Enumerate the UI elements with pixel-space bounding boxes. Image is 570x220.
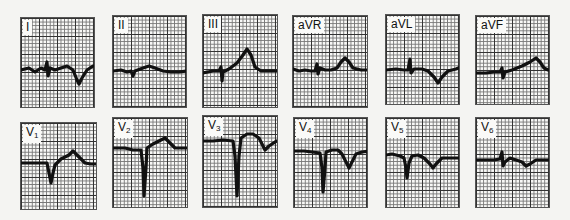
lead-panel-iii: III xyxy=(202,14,278,108)
lead-label: V6 xyxy=(478,120,496,138)
lead-label: III xyxy=(205,17,221,32)
lead-panel-avr: aVR xyxy=(292,15,368,108)
lead-panel-avl: aVL xyxy=(385,14,460,105)
lead-label: V3 xyxy=(205,118,223,136)
lead-panel-v2: V2 xyxy=(112,117,188,208)
lead-panel-ii: II xyxy=(112,15,187,108)
lead-label: II xyxy=(115,18,128,33)
lead-label: V2 xyxy=(115,120,133,138)
lead-label: aVF xyxy=(478,18,506,33)
lead-label: V4 xyxy=(296,120,314,138)
lead-label: V1 xyxy=(23,125,41,143)
lead-label: aVR xyxy=(295,18,324,33)
lead-label: V5 xyxy=(388,120,406,138)
lead-panel-v4: V4 xyxy=(293,117,368,208)
lead-label: I xyxy=(23,20,32,35)
lead-panel-v5: V5 xyxy=(385,117,460,208)
lead-panel-v1: V1 xyxy=(20,122,97,210)
lead-label: aVL xyxy=(388,17,415,32)
lead-panel-v3: V3 xyxy=(202,115,278,208)
lead-panel-v6: V6 xyxy=(475,117,550,208)
lead-panel-avf: aVF xyxy=(475,15,550,105)
lead-panel-i: I xyxy=(20,17,95,108)
